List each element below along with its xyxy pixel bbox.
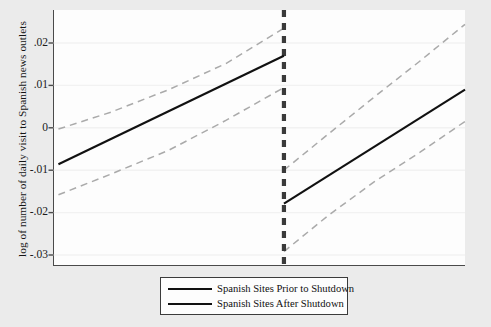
legend-item: Spanish Sites Prior to Shutdown (161, 281, 347, 296)
legend: Spanish Sites Prior to Shutdown Spanish … (160, 277, 348, 315)
y-tick-label: -.02 (4, 206, 48, 218)
y-tick-label: 0 (4, 122, 48, 134)
y-tick-label: -.01 (4, 164, 48, 176)
plot-area (53, 10, 465, 266)
y-tick-label: .01 (4, 79, 48, 91)
legend-item-label: Spanish Sites After Shutdown (217, 298, 344, 309)
legend-item: Spanish Sites After Shutdown (161, 296, 347, 311)
figure-canvas: log of number of daily visit to Spanish … (0, 0, 491, 327)
legend-line-icon (168, 284, 212, 293)
y-axis-tick-labels: .02 .01 0 -.01 -.02 -.03 (0, 0, 48, 327)
y-tick-label: -.03 (4, 249, 48, 261)
y-tick-label: .02 (4, 37, 48, 49)
legend-item-label: Spanish Sites Prior to Shutdown (217, 283, 354, 294)
legend-line-icon (168, 299, 212, 308)
